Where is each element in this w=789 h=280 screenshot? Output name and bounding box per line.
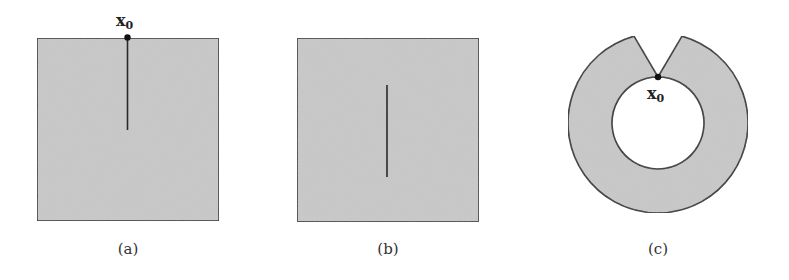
figure-canvas: x0 (a) (b) x0 (c) xyxy=(0,0,789,280)
panel-label-c: (c) xyxy=(648,240,668,258)
panel-label-b: (b) xyxy=(377,240,398,258)
point-x0-marker xyxy=(124,34,130,40)
panel-a: x0 (a) xyxy=(37,11,219,258)
panel-c: x0 (c) xyxy=(568,36,748,258)
square-domain-b xyxy=(297,38,479,222)
panel-b: (b) xyxy=(297,38,479,258)
notched-annulus xyxy=(568,36,748,213)
panel-label-a: (a) xyxy=(118,240,139,258)
point-x0-label: x0 xyxy=(647,84,665,105)
point-x0-marker xyxy=(655,74,661,80)
point-x0-label: x0 xyxy=(116,11,134,32)
